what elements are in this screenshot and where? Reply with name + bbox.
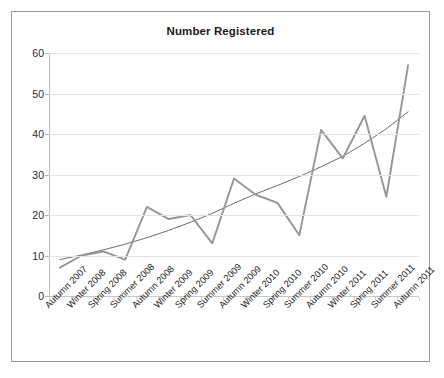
gridline [49, 94, 419, 95]
gridline [49, 175, 419, 176]
gridline [49, 256, 419, 257]
plot-area [49, 53, 419, 296]
y-axis-tick-mark [45, 256, 49, 257]
y-axis-tick-mark [45, 215, 49, 216]
y-axis-tick-label: 60 [18, 47, 44, 59]
y-axis-tick-mark [45, 175, 49, 176]
gridline [49, 134, 419, 135]
y-axis-tick-mark [45, 134, 49, 135]
y-axis-tick-label: 40 [18, 128, 44, 140]
y-axis-tick-label: 10 [18, 250, 44, 262]
gridline [49, 215, 419, 216]
x-axis-tick-mark [419, 297, 420, 301]
gridline [49, 53, 419, 54]
y-axis-tick-label: 50 [18, 88, 44, 100]
chart-title: Number Registered [12, 25, 429, 37]
y-axis-tick-mark [45, 94, 49, 95]
series-polyline [60, 65, 408, 268]
chart-frame: Number Registered 0102030405060 Autumn 2… [11, 11, 430, 362]
y-axis-tick-label: 20 [18, 209, 44, 221]
y-axis-tick-label: 30 [18, 169, 44, 181]
y-axis-tick-labels: 0102030405060 [15, 53, 44, 296]
y-axis-tick-label: 0 [18, 290, 44, 302]
y-axis-tick-mark [45, 53, 49, 54]
